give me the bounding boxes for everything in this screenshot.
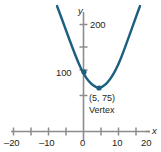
x-tick-label-10: 10 — [112, 138, 122, 148]
parabola-graph-figure: –20 –10 0 10 20 100 200 y x (5, 75) Vert… — [0, 0, 161, 152]
x-tick-label-neg10: –10 — [39, 138, 55, 148]
y-tick-label-100: 100 — [56, 68, 72, 78]
x-axis-label: x — [152, 126, 157, 136]
vertex-coordinates-label: (5, 75) — [89, 94, 115, 103]
vertex-point-marker — [96, 85, 101, 90]
plot-area — [0, 0, 161, 152]
x-tick-label-0: 0 — [80, 138, 85, 148]
x-tick-label-20: 20 — [141, 138, 151, 148]
vertex-caption-label: Vertex — [89, 106, 115, 115]
x-tick-label-neg20: –20 — [4, 138, 20, 148]
y-tick-label-200: 200 — [90, 20, 106, 30]
y-intercept-point-marker — [81, 69, 86, 74]
y-axis-label: y — [78, 6, 83, 16]
